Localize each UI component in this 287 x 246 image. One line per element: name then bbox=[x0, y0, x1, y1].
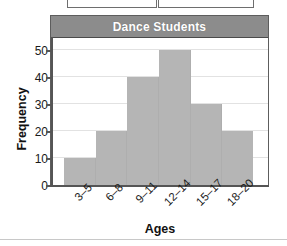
bar bbox=[159, 50, 191, 185]
histogram-chart: Dance Students bbox=[50, 15, 269, 186]
y-axis-line bbox=[51, 37, 53, 186]
bottom-divider bbox=[0, 239, 287, 240]
x-axis-title: Ages bbox=[51, 222, 269, 236]
y-axis-tick-mark bbox=[46, 50, 52, 52]
y-axis-tick-mark bbox=[46, 77, 52, 79]
bar-series bbox=[64, 39, 253, 185]
y-axis-tick-mark bbox=[46, 104, 52, 106]
plot-area bbox=[52, 39, 268, 185]
y-axis-title: Frequency bbox=[15, 69, 29, 169]
x-axis-tick-labels: 3–56–89–1112–1415–1718–20 bbox=[63, 188, 252, 222]
cropped-box-right bbox=[158, 0, 254, 8]
y-axis-tick-label: 0 bbox=[8, 179, 48, 193]
bar bbox=[127, 77, 159, 185]
chart-title-bar: Dance Students bbox=[51, 16, 268, 38]
y-axis-tick-label: 50 bbox=[8, 44, 48, 58]
cropped-box-left bbox=[67, 0, 157, 8]
chart-title: Dance Students bbox=[113, 20, 207, 34]
y-axis-tick-mark bbox=[46, 131, 52, 133]
y-axis-tick-mark bbox=[46, 185, 52, 187]
top-cropped-boxes bbox=[0, 0, 287, 9]
y-axis-tick-mark bbox=[46, 158, 52, 160]
